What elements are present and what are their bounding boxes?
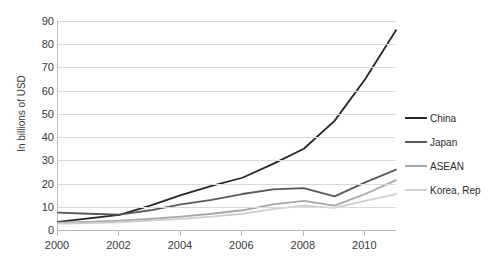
y-axis-tick-label: 40 xyxy=(28,131,54,143)
x-axis-tick-mark xyxy=(118,231,119,236)
y-axis-tick-labels: 0102030405060708090 xyxy=(26,21,54,230)
x-axis-tick-mark xyxy=(180,231,181,236)
legend-item-label: Japan xyxy=(430,137,457,148)
x-axis-tick-label: 2000 xyxy=(45,239,69,251)
legend-item-label: Korea, Rep xyxy=(430,185,481,196)
gridline xyxy=(58,184,396,185)
gridline xyxy=(58,160,396,161)
legend-item[interactable]: China xyxy=(405,106,497,130)
gridline xyxy=(58,21,396,22)
y-axis-tick-label: 90 xyxy=(28,15,54,27)
y-axis-tick-label: 70 xyxy=(28,61,54,73)
legend-swatch-icon xyxy=(405,189,427,191)
x-axis-tick-label: 2002 xyxy=(106,239,130,251)
legend-swatch-icon xyxy=(405,117,427,119)
series-line-korea-rep xyxy=(58,194,396,223)
legend-item-label: ASEAN xyxy=(430,161,464,172)
y-axis-tick-label: 20 xyxy=(28,178,54,190)
y-axis-tick-label: 10 xyxy=(28,201,54,213)
y-axis-tick-label: 0 xyxy=(28,224,54,236)
legend-item-label: China xyxy=(430,113,456,124)
x-axis-tick-label: 2008 xyxy=(291,239,315,251)
gridline xyxy=(58,137,396,138)
gridline xyxy=(58,67,396,68)
y-axis-tick-label: 30 xyxy=(28,154,54,166)
x-axis-tick-mark xyxy=(364,231,365,236)
chart-legend: ChinaJapanASEANKorea, Rep xyxy=(405,106,497,202)
line-chart: In billions of USD 0102030405060708090 2… xyxy=(0,0,497,272)
legend-item[interactable]: Japan xyxy=(405,130,497,154)
x-axis-tick-label: 2010 xyxy=(352,239,376,251)
x-axis-tick-mark xyxy=(57,231,58,236)
x-axis-tick-label: 2006 xyxy=(229,239,253,251)
x-axis-tick-label: 2004 xyxy=(168,239,192,251)
series-lines xyxy=(58,21,396,230)
plot-area xyxy=(57,21,396,231)
gridline xyxy=(58,114,396,115)
series-line-japan xyxy=(58,170,396,215)
y-axis-tick-label: 80 xyxy=(28,38,54,50)
legend-item[interactable]: Korea, Rep xyxy=(405,178,497,202)
gridline xyxy=(58,44,396,45)
legend-item[interactable]: ASEAN xyxy=(405,154,497,178)
gridline xyxy=(58,207,396,208)
legend-swatch-icon xyxy=(405,165,427,167)
x-axis-tick-labels: 200020022004200620082010 xyxy=(57,231,395,255)
legend-swatch-icon xyxy=(405,141,427,143)
gridline xyxy=(58,91,396,92)
y-axis-tick-label: 60 xyxy=(28,85,54,97)
y-axis-tick-label: 50 xyxy=(28,108,54,120)
x-axis-tick-mark xyxy=(303,231,304,236)
x-axis-tick-mark xyxy=(241,231,242,236)
series-line-china xyxy=(58,30,396,222)
y-axis-title: In billions of USD xyxy=(16,49,27,179)
